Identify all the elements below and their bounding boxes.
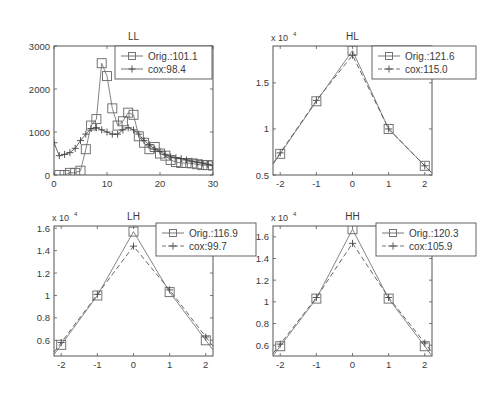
legend-entry: Orig.:116.9 — [189, 228, 238, 239]
x-tick-label: 0 — [51, 178, 56, 189]
svg-text:4: 4 — [293, 31, 297, 37]
y-tick-label: 0.6 — [256, 340, 269, 351]
x-tick-label: -1 — [312, 359, 320, 370]
figure: LL01020300100020003000Orig.:101.1cox:98.… — [0, 0, 500, 393]
y-tick-label: 1 — [264, 296, 269, 307]
figure-canvas: LL01020300100020003000Orig.:101.1cox:98.… — [0, 0, 500, 393]
subplot-hh: HHx 104-2-10120.60.811.21.41.6Orig.:120.… — [256, 211, 476, 370]
legend: Orig.:121.6cox:115.0 — [372, 46, 476, 79]
x-tick-label: 0 — [131, 359, 136, 370]
subplot-title: HH — [345, 211, 359, 222]
y-tick-label: 1 — [45, 290, 50, 301]
legend-entry: cox:115.0 — [405, 64, 448, 75]
y-tick-label: 1000 — [29, 127, 50, 138]
legend: Orig.:116.9cox:99.7 — [156, 223, 256, 256]
x-tick-label: 2 — [422, 359, 427, 370]
y-tick-label: 0.6 — [37, 335, 50, 346]
legend: Orig.:120.3cox:105.9 — [376, 223, 476, 256]
y-multiplier-label: x 10 — [271, 33, 288, 43]
y-tick-label: 0.8 — [37, 312, 50, 323]
legend-entry: cox:105.9 — [409, 241, 453, 252]
x-tick-label: 2 — [422, 178, 427, 189]
x-tick-label: 1 — [386, 359, 391, 370]
y-tick-label: 1.4 — [37, 245, 50, 256]
x-tick-label: 1 — [386, 178, 391, 189]
y-multiplier-label: x 10 — [271, 213, 288, 223]
subplot-title: LH — [127, 211, 140, 222]
x-tick-label: -1 — [312, 178, 320, 189]
subplot-ll: LL01020300100020003000Orig.:101.1cox:98.… — [29, 31, 218, 189]
y-tick-label: 1.4 — [256, 253, 269, 264]
subplot-lh: LHx 104-2-10120.60.811.21.41.6Orig.:116.… — [37, 211, 256, 370]
x-tick-label: 2 — [203, 359, 208, 370]
y-tick-label: 1.6 — [256, 231, 269, 242]
legend-entry: cox:99.7 — [189, 241, 227, 252]
x-tick-label: -2 — [276, 178, 284, 189]
svg-text:4: 4 — [293, 211, 297, 217]
y-tick-label: 1.6 — [37, 223, 50, 234]
y-tick-label: 1.2 — [256, 275, 269, 286]
x-tick-label: 0 — [350, 178, 355, 189]
x-tick-label: -2 — [57, 359, 65, 370]
y-tick-label: 1 — [264, 123, 269, 134]
y-tick-label: 2000 — [29, 84, 50, 95]
x-tick-label: -1 — [93, 359, 101, 370]
legend-entry: Orig.:121.6 — [405, 51, 455, 62]
subplot-title: HL — [346, 31, 359, 42]
legend-entry: Orig.:120.3 — [409, 228, 459, 239]
y-tick-label: 1.5 — [256, 77, 269, 88]
x-tick-label: 20 — [155, 178, 166, 189]
legend-entry: cox:98.4 — [148, 64, 186, 75]
x-tick-label: 1 — [167, 359, 172, 370]
x-tick-label: 30 — [208, 178, 219, 189]
y-tick-label: 0 — [45, 170, 50, 181]
x-tick-label: 0 — [350, 359, 355, 370]
y-tick-label: 3000 — [29, 41, 50, 52]
svg-text:4: 4 — [74, 211, 78, 217]
y-multiplier-label: x 10 — [52, 213, 69, 223]
legend-entry: Orig.:101.1 — [148, 51, 198, 62]
x-tick-label: 10 — [102, 178, 113, 189]
x-tick-label: -2 — [276, 359, 284, 370]
y-tick-label: 0.5 — [256, 170, 269, 181]
y-tick-label: 1.2 — [37, 268, 50, 279]
series-line — [273, 243, 432, 353]
y-tick-label: 0.8 — [256, 318, 269, 329]
subplot-hl: HLx 104-2-10120.511.5Orig.:121.6cox:115.… — [256, 31, 476, 189]
series-line — [54, 246, 213, 352]
subplot-title: LL — [128, 31, 140, 42]
legend: Orig.:101.1cox:98.4 — [115, 46, 212, 79]
